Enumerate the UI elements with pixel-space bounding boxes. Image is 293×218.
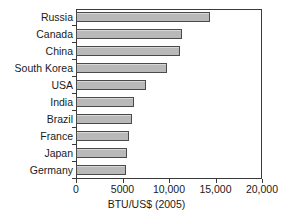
category-label-canada: Canada: [36, 26, 73, 43]
x-axis-tick-label: 5000: [111, 183, 134, 196]
bar-brazil: [76, 114, 132, 124]
category-label-germany: Germany: [30, 162, 73, 179]
x-axis-tick-label: 0: [73, 183, 79, 196]
bar-russia: [76, 12, 210, 22]
x-axis-tick-labels: 0500010,00015,00020,000: [0, 183, 293, 197]
category-label-china: China: [46, 43, 73, 60]
category-label-france: France: [40, 128, 73, 145]
bar-south-korea: [76, 63, 167, 73]
x-axis-tick-label: 15,000: [199, 183, 231, 196]
bar-row: South Korea: [0, 60, 293, 77]
bar-france: [76, 131, 129, 141]
bar-canada: [76, 29, 182, 39]
bar-row: USA: [0, 77, 293, 94]
category-label-usa: USA: [51, 77, 73, 94]
bar-row: France: [0, 128, 293, 145]
bar-row: Russia: [0, 9, 293, 26]
bar-row: Japan: [0, 145, 293, 162]
bar-row: China: [0, 43, 293, 60]
x-axis-title: BTU/US$ (2005): [0, 198, 293, 210]
bar-row: India: [0, 94, 293, 111]
category-label-brazil: Brazil: [47, 111, 73, 128]
category-label-russia: Russia: [41, 9, 73, 26]
bar-usa: [76, 80, 146, 90]
bar-india: [76, 97, 134, 107]
bar-germany: [76, 165, 126, 175]
x-axis-tick-label: 10,000: [153, 183, 185, 196]
x-axis-tick-label: 20,000: [246, 183, 278, 196]
category-label-india: India: [50, 94, 73, 111]
bar-japan: [76, 148, 127, 158]
category-label-south-korea: South Korea: [15, 60, 73, 77]
bar-china: [76, 46, 180, 56]
bar-rows: RussiaCanadaChinaSouth KoreaUSAIndiaBraz…: [0, 9, 293, 179]
bar-row: Germany: [0, 162, 293, 179]
bar-chart: RussiaCanadaChinaSouth KoreaUSAIndiaBraz…: [0, 0, 293, 218]
bar-row: Canada: [0, 26, 293, 43]
category-label-japan: Japan: [44, 145, 73, 162]
bar-row: Brazil: [0, 111, 293, 128]
